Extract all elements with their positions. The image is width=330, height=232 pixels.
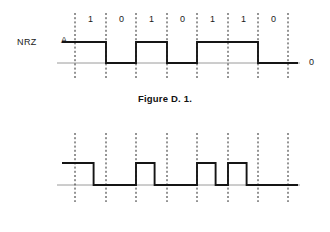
bit-label-5: 1 [236, 14, 252, 24]
rz-waveform-svg [0, 116, 330, 212]
bit-label-0: 1 [83, 14, 99, 24]
nrz-zero-level-label: 0 [309, 57, 314, 67]
bit-label-2: 1 [144, 14, 160, 24]
nrz-figure-caption: Figure D. 1. [0, 93, 330, 104]
bit-label-1: 0 [114, 14, 130, 24]
figure-rz: RZ A 0 1010110 Figure D. 2. [0, 116, 330, 232]
nrz-signal-label: NRZ [17, 37, 37, 47]
nrz-amplitude-label: A [61, 35, 67, 45]
figure-nrz: NRZ A 0 1010110 Figure D. 1. [0, 0, 330, 116]
nrz-waveform-path [62, 42, 298, 63]
rz-plot-area [0, 116, 330, 212]
bit-label-4: 1 [205, 14, 221, 24]
bit-label-6: 0 [266, 14, 282, 24]
bit-label-3: 0 [175, 14, 191, 24]
rz-waveform-path [62, 163, 298, 185]
